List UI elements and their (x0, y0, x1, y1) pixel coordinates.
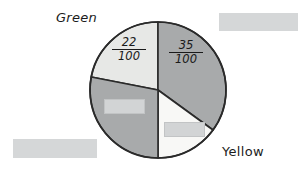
fraction-numerator-red: 35 (169, 39, 203, 51)
redaction-box-yellow-slice[interactable] (164, 122, 205, 137)
fraction-label-red: 35 100 (169, 39, 203, 66)
pie-slice-unlabeled[interactable] (90, 77, 158, 158)
redaction-box-bottom-left[interactable] (13, 139, 97, 158)
fraction-denominator-red: 100 (169, 53, 203, 65)
redaction-box-top-right[interactable] (219, 13, 298, 31)
slice-label-yellow: Yellow (222, 144, 264, 159)
fraction-numerator-green: 22 (112, 36, 146, 48)
slice-label-green: Green (56, 10, 97, 25)
fraction-denominator-green: 100 (112, 50, 146, 62)
fraction-label-green: 22 100 (112, 36, 146, 63)
pie-chart-figure: 22 100 35 100 Green Yellow (0, 0, 298, 181)
redaction-box-left-slice[interactable] (104, 99, 145, 114)
